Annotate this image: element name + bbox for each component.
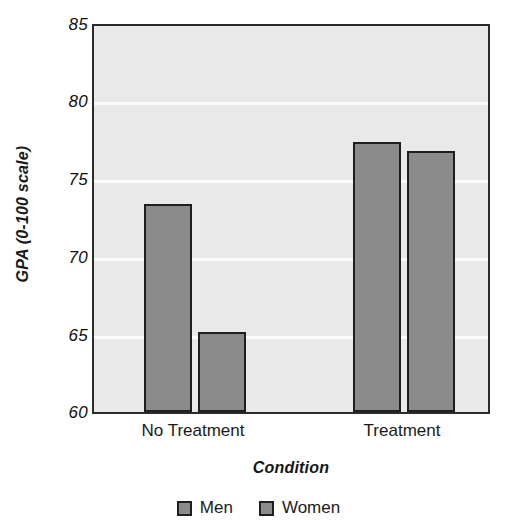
y-axis-tick-labels: 85 80 75 70 65 60 [44, 0, 88, 532]
chart-legend: MenWomen [0, 498, 517, 518]
legend-swatch-icon [259, 501, 274, 516]
x-tick-label-no-treatment: No Treatment [142, 421, 245, 441]
x-axis-tick-labels: No Treatment Treatment [92, 421, 490, 451]
bar-treatment-women [407, 151, 455, 412]
plot-area [92, 24, 490, 414]
y-tick-label: 85 [44, 15, 88, 35]
x-axis-title: Condition [92, 459, 490, 477]
legend-item-men: Men [177, 498, 233, 518]
y-axis-title: GPA (0-100 scale) [14, 109, 32, 319]
x-tick-label-treatment: Treatment [364, 421, 441, 441]
bar-chart-figure: GPA (0-100 scale) 85 80 75 70 65 60 No T… [0, 0, 517, 532]
legend-swatch-icon [177, 501, 192, 516]
bar-no-treatment-men [144, 204, 192, 412]
legend-label: Men [200, 498, 233, 518]
y-tick-label: 65 [44, 326, 88, 346]
legend-item-women: Women [259, 498, 340, 518]
y-tick-label: 70 [44, 248, 88, 268]
legend-label: Women [282, 498, 340, 518]
bars-layer [94, 26, 488, 412]
bar-no-treatment-women [198, 332, 246, 412]
y-tick-label: 60 [44, 403, 88, 423]
y-tick-label: 80 [44, 92, 88, 112]
bar-treatment-men [353, 142, 401, 412]
y-tick-label: 75 [44, 170, 88, 190]
